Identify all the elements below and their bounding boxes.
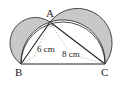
label-a: A bbox=[46, 7, 54, 19]
geometry-figure: A B C 6 cm 8 cm bbox=[0, 0, 120, 87]
label-b: B bbox=[15, 66, 22, 78]
label-ab-length: 6 cm bbox=[37, 44, 55, 54]
right-lune bbox=[50, 8, 112, 64]
label-ac-length: 8 cm bbox=[62, 49, 80, 59]
left-lune bbox=[10, 17, 50, 64]
label-c: C bbox=[101, 66, 108, 78]
